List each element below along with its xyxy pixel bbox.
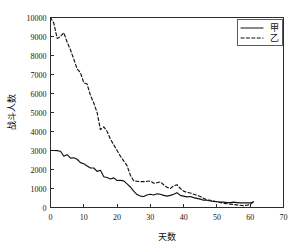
y-axis-ticks: 0100020003000400050006000700080009000100…	[27, 14, 55, 213]
x-tick-label: 20	[113, 213, 121, 222]
chart-canvas: 0100020003000400050006000700080009000100…	[0, 0, 305, 247]
y-tick-label: 3000	[31, 147, 47, 156]
series-line-乙	[51, 18, 254, 206]
x-axis-ticks: 010203040506070	[49, 204, 288, 222]
y-tick-label: 9000	[31, 33, 47, 42]
x-axis-title: 天数	[158, 231, 176, 242]
legend-label-0: 甲	[270, 23, 279, 33]
legend-label-1: 乙	[270, 33, 279, 43]
y-tick-label: 8000	[31, 52, 47, 61]
plot-border	[51, 18, 284, 208]
y-tick-label: 5000	[31, 109, 47, 118]
y-tick-label: 2000	[31, 166, 47, 175]
series-line-甲	[51, 151, 254, 203]
x-tick-label: 50	[213, 213, 221, 222]
chart-legend[interactable]: 甲 乙	[238, 20, 283, 46]
x-tick-label: 0	[49, 213, 53, 222]
y-axis-title: 战斗人数	[6, 94, 17, 130]
x-tick-label: 70	[280, 213, 288, 222]
plot-frame	[51, 18, 284, 208]
y-tick-label: 10000	[27, 14, 47, 23]
chart-figure: 0100020003000400050006000700080009000100…	[0, 0, 305, 247]
x-tick-label: 60	[246, 213, 254, 222]
x-tick-label: 10	[80, 213, 88, 222]
data-series-group	[51, 18, 254, 206]
y-tick-label: 0	[43, 204, 47, 213]
y-tick-label: 7000	[31, 71, 47, 80]
y-tick-label: 4000	[31, 128, 47, 137]
x-tick-label: 40	[180, 213, 188, 222]
x-tick-label: 30	[146, 213, 154, 222]
y-tick-label: 6000	[31, 90, 47, 99]
y-tick-label: 1000	[31, 185, 47, 194]
